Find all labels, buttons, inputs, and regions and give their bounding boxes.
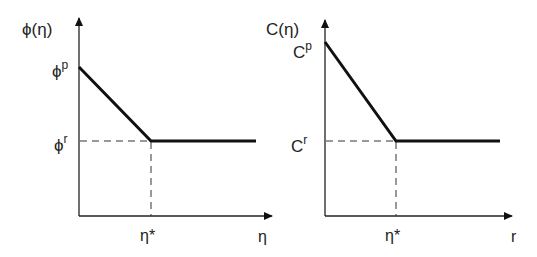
- right-panel: C(η) Cp Cr η* r: [266, 20, 517, 245]
- right-y-axis-label: C(η): [266, 20, 299, 39]
- right-y-high-label: Cp: [293, 39, 312, 62]
- left-y-high-label: ϕp: [52, 58, 69, 81]
- right-curve: [325, 42, 500, 141]
- left-x-axis-label: η: [258, 228, 267, 245]
- diagram-canvas: ϕ(η) ϕp ϕr η* η C(η) Cp Cr η* r: [0, 0, 537, 257]
- left-curve: [79, 67, 256, 141]
- left-threshold-label: η*: [140, 227, 155, 244]
- left-panel: ϕ(η) ϕp ϕr η* η: [22, 18, 272, 245]
- right-threshold-label: η*: [385, 227, 400, 244]
- right-x-axis-label: r: [511, 228, 517, 245]
- left-y-low-label: ϕr: [54, 132, 68, 155]
- left-y-axis-label: ϕ(η): [22, 20, 52, 39]
- right-y-low-label: Cr: [291, 133, 307, 156]
